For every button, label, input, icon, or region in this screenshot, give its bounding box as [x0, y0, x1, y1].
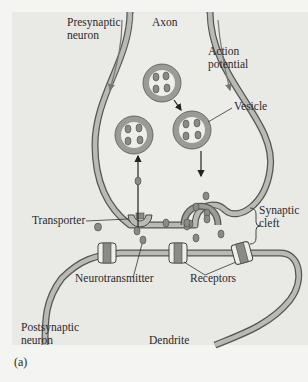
- label-action-potential: Action potential: [208, 45, 248, 71]
- label-vesicle: Vesicle: [234, 100, 267, 113]
- vesicle-top: [143, 64, 181, 102]
- label-presynaptic-line1: Presynaptic: [67, 16, 121, 29]
- label-cleft-line1: Synaptic: [259, 204, 299, 217]
- label-action-line2: potential: [208, 58, 248, 71]
- label-postsynaptic-neuron: Postsynaptic neuron: [21, 321, 79, 347]
- label-cleft-line2: cleft: [259, 217, 299, 230]
- vesicle-left: [115, 116, 153, 154]
- label-transporter: Transporter: [32, 214, 85, 227]
- label-postsynaptic-line1: Postsynaptic: [21, 321, 79, 334]
- label-dendrite: Dendrite: [149, 334, 189, 347]
- label-presynaptic-line2: neuron: [67, 29, 121, 42]
- label-postsynaptic-line2: neuron: [21, 334, 79, 347]
- label-synaptic-cleft: Synaptic cleft: [259, 204, 299, 230]
- label-receptors: Receptors: [190, 272, 236, 285]
- label-neurotransmitter: Neurotransmitter: [75, 272, 154, 285]
- figure-caption: (a): [14, 355, 27, 370]
- postsynaptic-membrane: [45, 253, 299, 345]
- vesicle-right: [173, 111, 211, 149]
- label-axon: Axon: [152, 16, 178, 29]
- label-action-line1: Action: [208, 45, 248, 58]
- label-presynaptic-neuron: Presynaptic neuron: [67, 16, 121, 42]
